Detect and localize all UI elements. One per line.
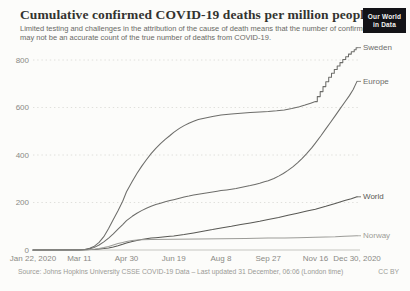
y-tick-label-600: 600 — [16, 103, 30, 112]
y-tick-label-200: 200 — [16, 198, 30, 207]
x-tick-label-5: Sep 27 — [256, 254, 282, 263]
series-line-sweden — [33, 48, 357, 250]
license-label[interactable]: CC BY — [378, 268, 399, 275]
x-tick-label-3: Jun 19 — [162, 254, 187, 263]
y-tick-label-800: 800 — [16, 56, 30, 65]
source-note: Source: Johns Hopkins University CSSE CO… — [18, 268, 343, 275]
series-label-norway: Norway — [363, 231, 390, 240]
x-tick-label-7: Dec 30, 2020 — [333, 254, 381, 263]
x-tick-label-1: Mar 11 — [67, 254, 92, 263]
series-label-sweden: Sweden — [363, 43, 392, 52]
y-tick-label-400: 400 — [16, 151, 30, 160]
series-line-norway — [33, 236, 357, 250]
owid-chart: Cumulative confirmed COVID-19 deaths per… — [0, 0, 410, 291]
series-label-world: World — [363, 192, 384, 201]
series-label-europe: Europe — [363, 77, 389, 86]
x-tick-label-6: Nov 16 — [303, 254, 329, 263]
series-line-world — [33, 197, 357, 250]
x-tick-label-2: Apr 30 — [115, 254, 139, 263]
line-chart: 0200400600800Jan 22, 2020Mar 11Apr 30Jun… — [0, 0, 410, 291]
x-tick-label-4: Aug 8 — [211, 254, 232, 263]
x-tick-label-0: Jan 22, 2020 — [10, 254, 57, 263]
series-line-europe — [33, 81, 357, 250]
